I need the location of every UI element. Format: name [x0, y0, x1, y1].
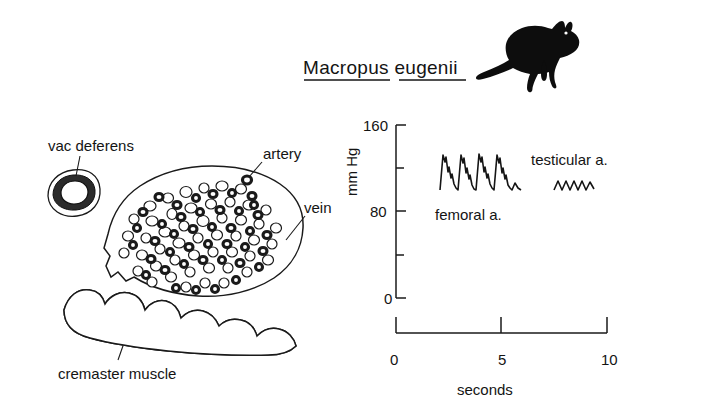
x-tick-label-10: 10 [601, 352, 618, 367]
y-tick-label-160: 160 [363, 118, 388, 133]
x-tick-label-0: 0 [390, 352, 398, 367]
trace-testicular-artery [554, 181, 594, 190]
wallaby-silhouette-icon [476, 21, 579, 92]
label-testicular-artery: testicular a. [531, 152, 608, 167]
y-tick-label-80: 80 [370, 204, 387, 219]
labelled-artery-vessel [243, 176, 252, 184]
label-artery: artery [263, 146, 301, 161]
figure-title: Macropus eugenii [303, 58, 458, 77]
chart-x-axis [396, 317, 607, 333]
y-tick-label-0: 0 [384, 291, 392, 306]
trace-femoral-artery [440, 154, 521, 190]
x-axis-label: seconds [457, 382, 513, 397]
label-vas-deferens: vac deferens [48, 138, 134, 153]
y-axis-label: mm Hg [344, 148, 359, 196]
chart-y-axis [396, 125, 406, 298]
vas-deferens-structure [48, 156, 100, 216]
label-femoral-artery: femoral a. [435, 207, 502, 222]
label-cremaster-muscle: cremaster muscle [58, 366, 176, 381]
label-vein: vein [304, 200, 332, 215]
x-tick-label-5: 5 [498, 352, 506, 367]
